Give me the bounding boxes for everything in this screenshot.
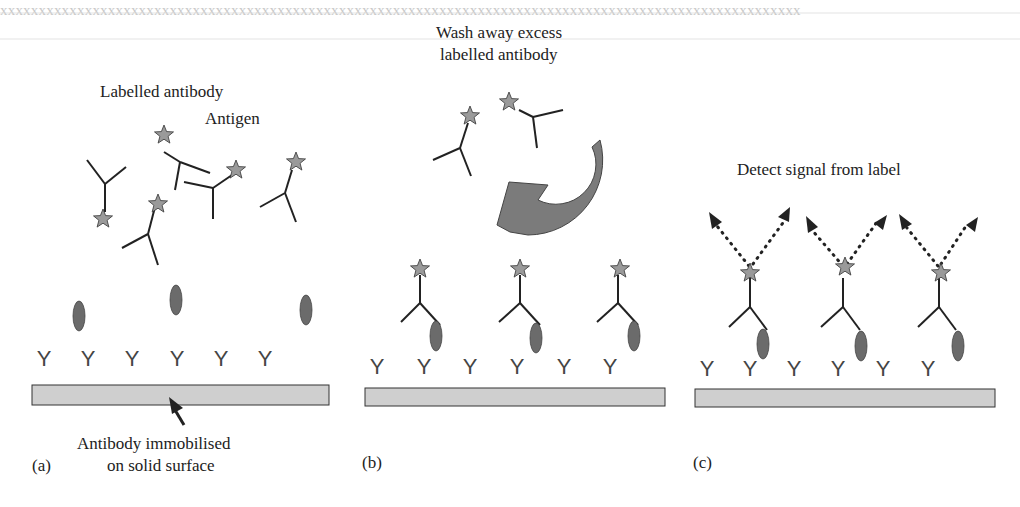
antibody-y-icon-group-c: [700, 356, 936, 381]
signal-arrowheads: [709, 207, 978, 233]
panel-label-c: (c): [693, 453, 712, 473]
panel-label-a: (a): [32, 456, 51, 476]
washed-antibodies-b: [433, 110, 563, 176]
solid-surface-a: [32, 385, 329, 405]
label-detect-signal: Detect signal from label: [737, 160, 901, 180]
label-immobilised: Antibody immobilised: [77, 434, 230, 454]
star-label-icon-group-c: [741, 257, 951, 281]
bound-complexes-b: [401, 275, 638, 325]
label-labelled-antibody: Labelled antibody: [100, 82, 223, 102]
star-label-icon-group-a: [94, 125, 306, 227]
label-immobilised-line2: on solid surface: [107, 456, 215, 476]
solid-surface-c: [695, 389, 995, 407]
panel-label-b: (b): [362, 453, 382, 473]
label-wash-line2: labelled antibody: [440, 45, 558, 65]
curved-wash-arrow-icon: [497, 140, 603, 235]
immunoassay-diagram: Y: [0, 0, 1020, 507]
label-wash-line1: Wash away excess: [436, 23, 562, 43]
star-label-icon-group-b-free: [461, 92, 519, 124]
signal-arrow-icon-group: [717, 220, 966, 266]
bound-complexes-c: [729, 278, 956, 330]
antigen-ellipse-icon-group-b: [430, 321, 640, 353]
label-antigen: Antigen: [205, 109, 260, 129]
antigen-ellipse-icon-group-a: [73, 285, 312, 331]
antibody-y-icon-group-b: [370, 354, 618, 379]
star-label-icon-group-b-bound: [411, 259, 630, 277]
solid-surface-b: [365, 388, 665, 406]
antibody-y-icon-group-a: [37, 346, 273, 371]
free-labelled-antibodies-a: [87, 152, 296, 265]
